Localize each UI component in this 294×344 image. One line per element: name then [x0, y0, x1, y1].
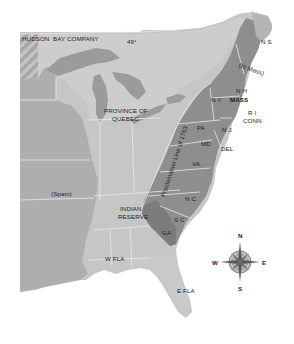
- label-virginia: VA: [192, 161, 200, 167]
- label-rhode-island: R I: [248, 110, 256, 116]
- label-maryland: MD: [201, 141, 211, 147]
- map-graphic: [0, 0, 294, 344]
- label-delaware: DEL: [221, 146, 233, 152]
- territory-florida: [126, 250, 190, 316]
- label-reserve: RESERVE: [118, 214, 148, 220]
- label-georgia: GA: [162, 230, 171, 236]
- label-east-florida: E FLA: [177, 288, 195, 294]
- compass-rose: [220, 242, 260, 282]
- colonial-america-1763-map: HUDSON BAY COMPANY 49° PROVINCE OF QUEBE…: [0, 0, 294, 344]
- label-new-hampshire: N H: [236, 88, 247, 94]
- label-hudson: HUDSON: [22, 36, 49, 42]
- label-connecticut: CONN: [243, 118, 262, 124]
- compass-south-label: S: [238, 286, 242, 292]
- label-49-parallel: 49°: [127, 39, 137, 45]
- label-bay-company: BAY COMPANY: [53, 36, 98, 42]
- label-quebec: QUEBEC: [112, 116, 139, 122]
- label-west-florida: W FLA: [105, 256, 124, 262]
- label-indian: INDIAN: [120, 206, 142, 212]
- compass-west-label: W: [212, 260, 218, 266]
- label-nova-scotia: N S: [261, 39, 272, 45]
- label-north-carolina: N C: [185, 196, 196, 202]
- label-province-of: PROVINCE OF: [104, 108, 148, 114]
- label-new-jersey: N J: [222, 127, 232, 133]
- compass-east-label: E: [262, 260, 266, 266]
- label-pennsylvania: PA: [197, 125, 205, 131]
- label-massachusetts: MASS: [230, 97, 248, 103]
- compass-north-label: N: [238, 233, 243, 239]
- label-spain: (Spain): [51, 191, 72, 197]
- label-new-york: N Y: [211, 97, 222, 103]
- label-south-carolina: S C: [174, 217, 185, 223]
